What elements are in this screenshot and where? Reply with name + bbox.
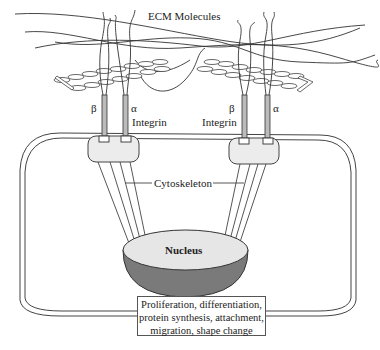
alpha-subunit-left-label: α xyxy=(131,102,137,114)
integrin-stems xyxy=(102,95,270,140)
nucleus-label: Nucleus xyxy=(165,244,203,256)
outcome-line-2: protein synthesis, attachment, xyxy=(138,311,265,324)
integrin-left-label: Integrin xyxy=(132,116,167,128)
cytoskeleton-label: Cytoskeleton xyxy=(154,177,213,189)
integrin-right-label: Integrin xyxy=(202,116,237,128)
cellular-outcomes-box: Proliferation, differentiation, protein … xyxy=(137,296,266,336)
nucleus xyxy=(123,230,248,297)
beta-subunit-right-label: β xyxy=(229,102,235,114)
right-chain-1 xyxy=(204,60,304,79)
beta-subunit-left-label: β xyxy=(91,102,97,114)
integrin-signaling-diagram: ECM Molecules β α Integrin β α Integrin … xyxy=(0,0,380,350)
focal-adhesions xyxy=(88,136,279,164)
outcome-line-3: migration, shape change xyxy=(138,324,265,337)
outcome-line-1: Proliferation, differentiation, xyxy=(138,298,265,311)
ecm-molecules-label: ECM Molecules xyxy=(148,10,220,22)
alpha-subunit-right-label: α xyxy=(273,102,279,114)
